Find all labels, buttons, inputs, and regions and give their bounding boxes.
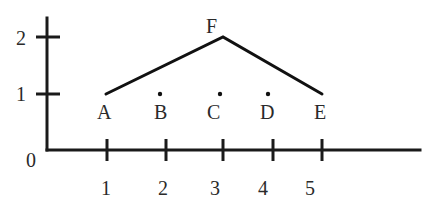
- x-tick-label-3: 3: [210, 177, 220, 199]
- coordinate-diagram: 2 1 0 1 2 3 4 5 A B C D E F: [0, 0, 422, 209]
- point-label-E: E: [314, 101, 326, 123]
- point-C-dot: [218, 92, 222, 96]
- y-tick-label-1: 1: [16, 83, 26, 105]
- x-tick-label-5: 5: [305, 177, 315, 199]
- point-label-A: A: [97, 101, 112, 123]
- y-tick-label-2: 2: [16, 27, 26, 49]
- point-label-B: B: [154, 101, 167, 123]
- x-tick-label-1: 1: [101, 177, 111, 199]
- segment-A-F-E: [106, 37, 322, 94]
- point-label-D: D: [260, 101, 274, 123]
- x-tick-label-2: 2: [158, 177, 168, 199]
- origin-label: 0: [26, 149, 36, 171]
- point-label-F: F: [206, 15, 217, 37]
- point-D-dot: [266, 92, 270, 96]
- x-tick-label-4: 4: [258, 177, 268, 199]
- point-B-dot: [158, 92, 162, 96]
- point-label-C: C: [207, 101, 220, 123]
